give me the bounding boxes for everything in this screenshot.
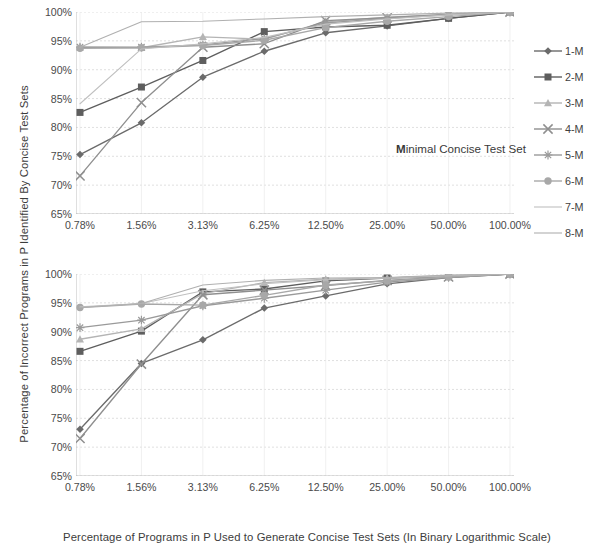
chart-figure: Percentage of Incorrect Programs in P Id… [0, 0, 614, 551]
legend-marker-icon [533, 148, 563, 162]
x-tick-labels: 0.78%1.56%3.13%6.25%12.50%25.00%50.00%10… [76, 219, 514, 235]
legend-label: 1-M [565, 45, 584, 57]
x-tick-label: 1.56% [126, 481, 156, 493]
legend-label: 4-M [565, 123, 584, 135]
plot-area-minimal [76, 12, 514, 214]
legend-marker-icon [533, 174, 563, 188]
y-tick-label: 85% [32, 93, 72, 105]
y-tick-label: 90% [32, 64, 72, 76]
y-tick-label: 95% [32, 35, 72, 47]
legend-item-8-m[interactable]: 8-M [533, 220, 611, 246]
chart-panel-minimal: 65%70%75%80%85%90%95%100% 0.78%1.56%3.13… [0, 0, 614, 252]
x-axis-title: Percentage of Programs in P Used to Gene… [0, 531, 614, 543]
x-tick-label: 0.78% [65, 219, 95, 231]
legend-minimal: 1-M2-M3-M4-M5-M6-M7-M8-M [533, 38, 611, 246]
x-tick-label: 0.78% [65, 481, 95, 493]
y-tick-label: 85% [32, 355, 72, 367]
legend-label: 6-M [565, 175, 584, 187]
y-tick-label: 75% [32, 150, 72, 162]
x-tick-label: 25.00% [369, 481, 405, 493]
y-tick-label: 80% [32, 121, 72, 133]
x-tick-label: 25.00% [369, 219, 405, 231]
plot-area-gradated [76, 274, 514, 476]
legend-marker-icon [533, 44, 563, 58]
legend-marker-icon [533, 96, 563, 110]
legend-marker-icon [533, 226, 563, 240]
x-tick-label: 1.56% [126, 219, 156, 231]
chart-panel-gradated: 65%70%75%80%85%90%95%100% 0.78%1.56%3.13… [0, 262, 614, 514]
legend-item-2-m[interactable]: 2-M [533, 64, 611, 90]
annotation-minimal-initial: M [396, 142, 406, 155]
x-tick-label: 100.00% [489, 219, 531, 231]
x-tick-label: 3.13% [188, 219, 218, 231]
legend-label: 5-M [565, 149, 584, 161]
x-tick-label: 50.00% [431, 481, 467, 493]
legend-item-1-m[interactable]: 1-M [533, 38, 611, 64]
x-tick-label: 6.25% [249, 219, 279, 231]
legend-item-3-m[interactable]: 3-M [533, 90, 611, 116]
x-tick-label: 100.00% [489, 481, 531, 493]
x-tick-label: 6.25% [249, 481, 279, 493]
y-tick-label: 100% [32, 6, 72, 18]
y-tick-label: 75% [32, 412, 72, 424]
x-tick-label: 50.00% [431, 219, 467, 231]
legend-marker-icon [533, 122, 563, 136]
plot-svg-minimal [76, 12, 514, 214]
x-tick-label: 12.50% [308, 219, 344, 231]
x-tick-label: 12.50% [308, 481, 344, 493]
legend-item-6-m[interactable]: 6-M [533, 168, 611, 194]
legend-item-5-m[interactable]: 5-M [533, 142, 611, 168]
legend-label: 7-M [565, 201, 584, 213]
legend-item-7-m[interactable]: 7-M [533, 194, 611, 220]
annotation-minimal-text: inimal Concise Test Set [406, 142, 526, 155]
x-tick-label: 3.13% [188, 481, 218, 493]
y-tick-label: 100% [32, 268, 72, 280]
x-tick-labels: 0.78%1.56%3.13%6.25%12.50%25.00%50.00%10… [76, 481, 514, 497]
legend-item-4-m[interactable]: 4-M [533, 116, 611, 142]
legend-marker-icon [533, 200, 563, 214]
y-tick-label: 70% [32, 441, 72, 453]
y-tick-label: 95% [32, 297, 72, 309]
legend-marker-icon [533, 70, 563, 84]
y-tick-label: 90% [32, 326, 72, 338]
plot-svg-gradated [76, 274, 514, 476]
annotation-minimal: Minimal Concise Test Set [396, 142, 526, 155]
y-tick-label: 70% [32, 179, 72, 191]
y-tick-labels: 65%70%75%80%85%90%95%100% [28, 274, 72, 476]
legend-label: 3-M [565, 97, 584, 109]
legend-label: 8-M [565, 227, 584, 239]
legend-label: 2-M [565, 71, 584, 83]
y-tick-labels: 65%70%75%80%85%90%95%100% [28, 12, 72, 214]
y-tick-label: 80% [32, 383, 72, 395]
